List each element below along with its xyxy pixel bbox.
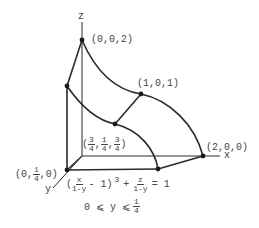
- label-text: ): [120, 140, 126, 150]
- point-left-top: [65, 84, 70, 89]
- fraction-z: z1-y: [133, 176, 147, 193]
- fraction: 34: [88, 136, 95, 153]
- denominator: 4: [89, 145, 94, 153]
- point-mid: [113, 122, 118, 127]
- point-1-0-1: [139, 92, 144, 97]
- denominator: 4: [134, 207, 139, 215]
- y-constraint: 0 ⩽ y ⩽ 14: [84, 198, 140, 215]
- inner-edge: [67, 156, 82, 170]
- denominator: 4: [102, 145, 107, 153]
- edge-bottom: [67, 169, 158, 170]
- fraction-x: x1-y: [72, 176, 86, 193]
- surface-equation: ( x1-y - 1) 3 + z1-y = 1: [66, 176, 170, 193]
- label-1-0-1: (1,0,1): [137, 79, 179, 89]
- denominator: 4: [115, 145, 120, 153]
- edge-bottom-right: [158, 156, 203, 169]
- edge-middle: [115, 94, 141, 124]
- exponent: 3: [114, 175, 119, 184]
- point-bottom-right: [156, 167, 161, 172]
- eq-text: = 1: [152, 179, 170, 190]
- label-text: (0,: [15, 170, 33, 180]
- point-0-0-2: [80, 38, 85, 43]
- fraction: 14: [133, 198, 140, 215]
- label-2-0-0: (2,0,0): [206, 143, 248, 153]
- eq-text: +: [123, 179, 129, 190]
- fraction: 34: [114, 136, 121, 153]
- denominator: 4: [34, 175, 39, 183]
- point-0-q-0: [65, 168, 70, 173]
- label-text: ,0): [40, 170, 58, 180]
- denominator: 1-y: [133, 185, 147, 193]
- label-0-0-2: (0,0,2): [91, 35, 133, 45]
- fraction: 14: [33, 166, 40, 183]
- z-axis-label: z: [78, 12, 84, 22]
- denominator: 1-y: [72, 185, 86, 193]
- eq-text: - 1): [88, 179, 112, 190]
- label-mid-point: ( 34, 14, 34 ): [82, 136, 127, 153]
- label-0-quarter-0: (0, 14 ,0): [15, 166, 58, 183]
- y-axis-label: y: [45, 185, 51, 195]
- constraint-text: 0 ⩽ y ⩽: [84, 201, 130, 213]
- fraction: 14: [101, 136, 108, 153]
- point-2-0-0: [201, 154, 206, 159]
- edge-top-left: [67, 40, 82, 86]
